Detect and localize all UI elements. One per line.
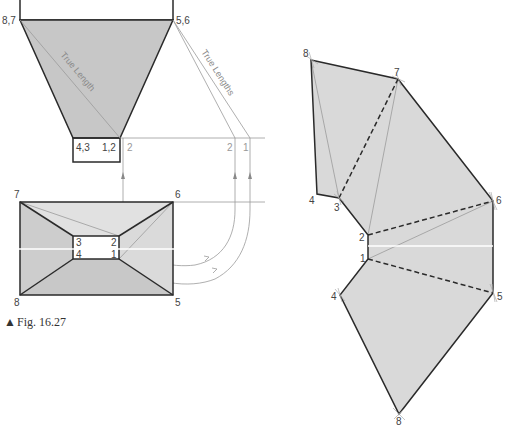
elevation-top-rectangle — [20, 0, 173, 20]
label-true-length-2: 2 — [227, 142, 233, 153]
dev-label-8-top: 8 — [303, 48, 309, 59]
plan-label-8: 8 — [14, 297, 20, 308]
label-projected-2: 2 — [127, 142, 133, 153]
dev-label-1: 1 — [360, 253, 366, 264]
dev-label-4-top: 4 — [309, 195, 315, 206]
elevation-hopper-body — [20, 20, 173, 138]
arrow-up-icon — [121, 172, 125, 179]
arrow-up-icon — [248, 172, 252, 179]
pattern-fill — [311, 60, 493, 414]
plan-label-1: 1 — [111, 249, 117, 260]
dev-label-2: 2 — [359, 232, 365, 243]
label-5-6: 5,6 — [176, 15, 190, 26]
label-4-3: 4,3 — [76, 142, 90, 153]
dev-label-8-bottom: 8 — [396, 416, 402, 427]
development-pattern: 8 7 6 4 3 2 1 4 5 8 — [303, 48, 503, 427]
plan-label-5: 5 — [175, 297, 181, 308]
plan-label-2: 2 — [111, 237, 117, 248]
plan-label-6: 6 — [175, 189, 181, 200]
true-length-line-1 — [173, 20, 250, 138]
true-lengths-annotation: True Lengths — [199, 48, 236, 98]
plan-label-7: 7 — [14, 189, 20, 200]
dev-label-6: 6 — [496, 195, 502, 206]
dev-label-7: 7 — [394, 67, 400, 78]
label-8-7: 8,7 — [2, 15, 16, 26]
label-1-2: 1,2 — [102, 142, 116, 153]
dev-label-3: 3 — [334, 202, 340, 213]
arc-direction-arrow-icon — [212, 268, 217, 273]
dev-label-4-bottom: 4 — [331, 291, 337, 302]
figure-caption: ▲ Fig. 16.27 — [4, 315, 66, 329]
plan-label-3: 3 — [76, 237, 82, 248]
caption-marker-icon: ▲ — [4, 315, 16, 329]
label-true-length-1: 1 — [243, 142, 249, 153]
plan-view: 7 6 8 5 3 2 4 1 — [14, 189, 181, 308]
arrow-up-icon — [233, 172, 237, 179]
dev-label-5: 5 — [497, 291, 503, 302]
technical-drawing: 8,7 5,6 4,3 1,2 2 2 1 True Length True L… — [0, 0, 510, 433]
caption-text: Fig. 16.27 — [17, 315, 66, 329]
plan-label-4: 4 — [76, 249, 82, 260]
elevation-view: 8,7 5,6 4,3 1,2 2 2 1 True Length True L… — [2, 0, 265, 162]
